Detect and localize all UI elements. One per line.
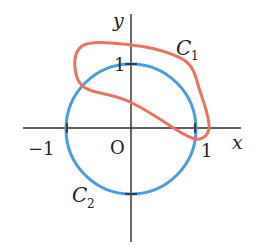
label-c2: C 2 [72,183,95,211]
svg-text:2: 2 [87,197,95,211]
diagram: y x O −1 1 1 C 1 C 2 [0,0,261,246]
x-axis-label: x [232,131,243,153]
tick-label-x-pos1: 1 [201,140,212,161]
tick-label-y-pos1: 1 [114,54,125,75]
svg-text:1: 1 [191,49,199,63]
label-c1: C 1 [176,36,199,63]
tick-label-x-neg1: −1 [28,138,55,159]
svg-text:C: C [72,183,87,207]
origin-label: O [110,137,125,158]
svg-text:C: C [176,36,191,60]
y-axis-label: y [112,9,124,31]
